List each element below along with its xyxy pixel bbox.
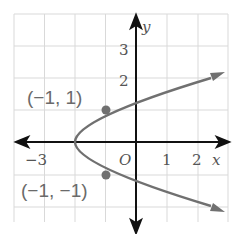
y-tick-label-3: 3 [119,41,129,59]
x-tick-label-1: 1 [162,151,172,169]
x-tick-label-neg3: −3 [25,151,47,169]
y-axis-up-arrow-icon [131,15,141,28]
point-neg1-neg1 [102,171,111,180]
y-axis-down-arrow-icon [131,220,141,233]
curve-upper-arrow-icon [210,72,225,81]
coordinate-plane: (−1, 1) (−1, −1) 3 2 y −3 O 1 2 x [0,0,235,234]
y-axis [131,15,141,233]
origin-label: O [119,151,131,169]
point-label-lower: (−1, −1) [21,180,88,201]
x-axis [16,137,229,147]
point-neg1-1 [102,106,111,115]
y-axis-label: y [141,18,151,36]
x-tick-label-2: 2 [192,151,202,169]
x-axis-label: x [212,151,221,169]
y-tick-label-2: 2 [119,72,129,90]
point-label-upper: (−1, 1) [27,87,82,108]
